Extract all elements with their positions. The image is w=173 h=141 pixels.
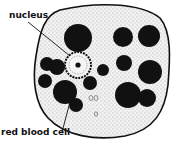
cell-diagram: nucleus red blood cell: [0, 0, 173, 141]
nucleus-label: nucleus: [9, 10, 48, 20]
nucleolus: [75, 62, 80, 67]
diagram-canvas: nucleus red blood cell: [0, 0, 173, 141]
nucleus: [65, 52, 91, 78]
rbc-label: red blood cell: [1, 127, 70, 137]
